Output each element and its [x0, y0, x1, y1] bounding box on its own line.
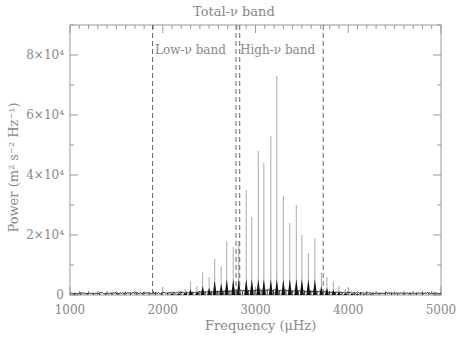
svg-text:2×10⁴: 2×10⁴ — [26, 228, 64, 242]
svg-text:8×10⁴: 8×10⁴ — [26, 48, 64, 62]
y-axis-label: Power (m² s⁻² Hz⁻¹) — [6, 102, 21, 232]
svg-text:2000: 2000 — [147, 303, 178, 317]
power-spectrum-chart: 1000200030004000500002×10⁴4×10⁴6×10⁴8×10… — [0, 0, 468, 341]
svg-text:6×10⁴: 6×10⁴ — [26, 108, 64, 122]
svg-text:4000: 4000 — [333, 303, 364, 317]
svg-text:5000: 5000 — [426, 303, 457, 317]
svg-text:0: 0 — [56, 288, 64, 302]
plot-area: 1000200030004000500002×10⁴4×10⁴6×10⁴8×10… — [26, 25, 456, 317]
high-band-label: High-ν band — [240, 43, 315, 57]
low-band-label: Low-ν band — [155, 43, 226, 57]
total-band-label: Total-ν band — [193, 4, 275, 19]
svg-text:1000: 1000 — [55, 303, 86, 317]
svg-text:3000: 3000 — [240, 303, 271, 317]
x-axis-label: Frequency (μHz) — [205, 318, 316, 333]
svg-text:4×10⁴: 4×10⁴ — [26, 168, 64, 182]
